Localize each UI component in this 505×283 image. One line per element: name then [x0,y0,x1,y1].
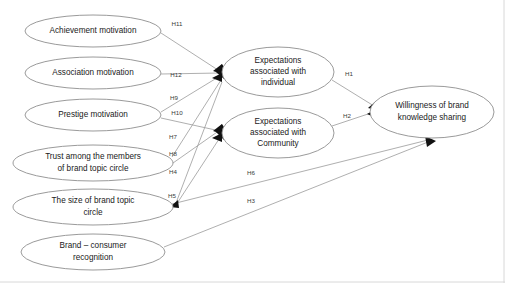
node-label-prestige: Prestige motivation [58,110,128,119]
node-label-association: Association motivation [52,68,134,77]
node-size-of-brand-topic-circle[interactable]: The size of brand topic circle [13,189,173,225]
edge-label-H8: H8 [169,150,177,157]
node-ellipse-willingness[interactable] [370,86,494,138]
node-label-exp-individual-line2: associated with [250,67,306,76]
node-association-motivation[interactable]: Association motivation [25,57,161,89]
edge-label-H9: H9 [170,94,178,101]
node-label-achievement: Achievement motivation [50,26,137,35]
node-willingness-knowledge-sharing[interactable]: Willingness of brand knowledge sharing [370,86,494,138]
node-label-exp-community-line1: Expectations [255,117,302,126]
node-label-trust-line1: Trust among the members [45,152,141,161]
node-brand-consumer-recognition[interactable]: Brand – consumer recognition [21,234,165,270]
node-label-exp-community-line2: associated with [250,128,306,137]
node-group: Achievement motivation Association motiv… [13,15,494,270]
edge-label-H6: H6 [247,169,255,176]
edge-line-H10 [161,118,220,131]
edge-line-H3 [164,142,428,247]
node-label-size-line1: The size of brand topic [52,196,135,205]
node-prestige-motivation[interactable]: Prestige motivation [25,99,161,131]
node-label-willingness-line1: Willingness of brand [395,101,469,110]
node-expectations-individual[interactable]: Expectations associated with individual [222,47,334,97]
edge-label-H5: H5 [168,192,176,199]
node-label-exp-individual-line1: Expectations [255,56,302,65]
node-ellipse-recognition[interactable] [21,234,165,270]
node-ellipse-size[interactable] [13,189,173,225]
node-expectations-community[interactable]: Expectations associated with Community [222,108,334,158]
node-label-trust-line2: of brand topic circle [58,164,129,173]
node-label-recognition-line1: Brand – consumer [60,241,127,250]
path-model-diagram: Achievement motivation Association motiv… [0,0,505,283]
node-label-willingness-line2: knowledge sharing [398,113,467,122]
edge-label-H2: H2 [343,112,351,119]
node-label-exp-community-line3: Community [257,139,299,148]
edge-label-H4: H4 [169,168,177,175]
edge-line-H7 [172,80,221,157]
edge-label-H12: H12 [170,71,182,78]
node-achievement-motivation[interactable]: Achievement motivation [25,15,161,47]
node-label-size-line2: circle [83,208,103,217]
edge-label-H3: H3 [247,197,255,204]
edge-line-H8 [173,130,220,163]
node-label-recognition-line2: recognition [73,253,114,262]
node-ellipse-trust[interactable] [13,145,173,181]
edge-line-H11 [161,33,221,72]
edge-label-H11: H11 [172,20,183,27]
diagram-canvas: Achievement motivation Association motiv… [0,0,505,283]
edge-label-H1: H1 [345,70,353,77]
edge-line-H5 [176,136,221,205]
edge-line-H1 [332,80,374,106]
edge-label-H7: H7 [169,133,177,140]
edge-line-H4 [176,82,222,203]
edge-label-H10: H10 [171,109,183,116]
node-label-exp-individual-line3: individual [261,78,295,87]
node-trust-among-members[interactable]: Trust among the members of brand topic c… [13,145,173,181]
